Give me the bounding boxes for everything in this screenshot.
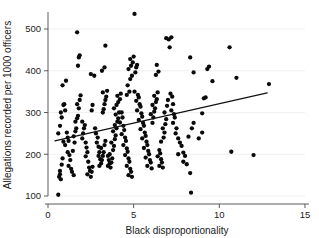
- data-point: [65, 130, 69, 134]
- data-point: [197, 136, 201, 140]
- data-point: [162, 130, 166, 134]
- data-point: [167, 45, 171, 49]
- data-point: [200, 111, 204, 115]
- data-point: [121, 143, 125, 147]
- data-point: [116, 116, 120, 120]
- data-point: [67, 153, 71, 157]
- data-point: [135, 63, 139, 67]
- data-point: [130, 74, 134, 78]
- data-point: [108, 165, 112, 169]
- y-axis-title: Allegations recorded per 1000 officers: [2, 21, 13, 189]
- data-point: [59, 110, 63, 114]
- data-point: [119, 92, 123, 96]
- data-point: [145, 143, 149, 147]
- data-point: [165, 104, 169, 108]
- data-point: [135, 108, 139, 112]
- data-point: [99, 146, 103, 150]
- data-point: [84, 140, 88, 144]
- data-point: [58, 169, 62, 173]
- data-point: [142, 146, 146, 150]
- data-point: [125, 164, 129, 168]
- data-point: [60, 115, 64, 119]
- data-point: [72, 140, 76, 144]
- data-point: [179, 144, 183, 148]
- data-point: [138, 105, 142, 109]
- data-point: [127, 89, 131, 93]
- y-tick-label-100: 100: [25, 190, 41, 201]
- data-point: [102, 102, 106, 106]
- data-point: [102, 150, 106, 154]
- data-point: [89, 175, 93, 179]
- data-point: [85, 150, 89, 154]
- data-point: [105, 89, 109, 93]
- data-point: [171, 102, 175, 106]
- data-point: [95, 140, 99, 144]
- data-point: [176, 152, 180, 156]
- data-point: [101, 154, 105, 158]
- data-point: [56, 193, 60, 197]
- data-point: [103, 139, 107, 143]
- x-tick-label-15: 15: [300, 209, 311, 220]
- data-point: [152, 94, 156, 98]
- data-point: [66, 139, 70, 143]
- data-point: [163, 122, 167, 126]
- data-point: [126, 83, 130, 87]
- data-point: [110, 156, 114, 160]
- data-point: [143, 155, 147, 159]
- data-point: [62, 102, 66, 106]
- x-tick-label-5: 5: [131, 209, 136, 220]
- y-tick-label-300: 300: [25, 107, 41, 118]
- data-point: [102, 143, 106, 147]
- data-point: [183, 154, 187, 158]
- data-point: [90, 165, 94, 169]
- data-point: [173, 131, 177, 135]
- data-point: [114, 133, 118, 137]
- data-point: [207, 64, 211, 68]
- data-point: [166, 98, 170, 102]
- data-point: [190, 126, 194, 130]
- data-point: [189, 191, 193, 195]
- data-point: [97, 164, 101, 168]
- data-point: [78, 53, 82, 57]
- data-point: [120, 115, 124, 119]
- data-point: [102, 65, 106, 69]
- data-point: [138, 127, 142, 131]
- data-point: [111, 148, 115, 152]
- y-tick-label-500: 500: [25, 23, 41, 34]
- data-point: [84, 154, 88, 158]
- data-point: [63, 108, 67, 112]
- data-point: [150, 103, 154, 107]
- data-point: [210, 79, 214, 83]
- data-point: [186, 135, 190, 139]
- data-point: [188, 171, 192, 175]
- data-point: [191, 70, 195, 74]
- data-point: [78, 98, 82, 102]
- data-point: [145, 164, 149, 168]
- scatter-plot-figure: 100200300400500 051015 Black disproporti…: [0, 0, 319, 238]
- data-point: [169, 35, 173, 39]
- data-point: [96, 135, 100, 139]
- data-point: [149, 160, 153, 164]
- data-point: [140, 136, 144, 140]
- data-point: [118, 120, 122, 124]
- data-point: [102, 107, 106, 111]
- data-point: [227, 45, 231, 49]
- data-point: [170, 94, 174, 98]
- data-point: [76, 64, 80, 68]
- data-point: [200, 130, 204, 134]
- x-tick-label-0: 0: [45, 209, 50, 220]
- data-point: [93, 126, 97, 130]
- data-point: [124, 139, 128, 143]
- data-point: [111, 129, 115, 133]
- data-point: [133, 70, 137, 74]
- data-point: [72, 173, 76, 177]
- data-point: [71, 149, 75, 153]
- x-tick-label-10: 10: [214, 209, 225, 220]
- data-point: [161, 126, 165, 130]
- data-point: [77, 106, 81, 110]
- data-point: [229, 150, 233, 154]
- data-point: [159, 140, 163, 144]
- data-point: [90, 170, 94, 174]
- data-point: [56, 131, 60, 135]
- data-point: [173, 115, 177, 119]
